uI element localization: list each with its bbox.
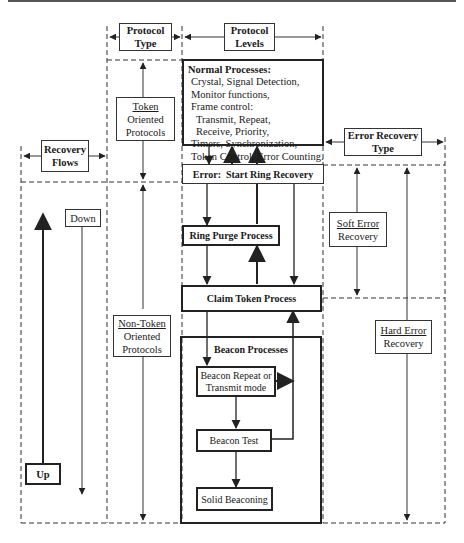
protocol-type-header: Protocol Type [119,23,172,51]
label: Claim Token Process [207,292,296,305]
error-start-ring-recovery-box: Error: Start Ring Recovery [182,164,324,184]
beacon-test-box: Beacon Test [196,429,272,452]
non-token-oriented-protocols-box: Non-Token Oriented Protocols [113,315,171,357]
label: Protocol [231,24,269,37]
process-line: Frame control: [188,101,318,113]
protocol-levels-header: Protocol Levels [224,23,275,51]
soft-error-recovery-box: Soft Error Recovery [329,212,387,247]
label: Type [135,37,157,50]
label: Solid Beaconing [201,493,267,506]
process-line: Receive, Priority, [188,126,318,138]
process-line: Timers, Synchronization, [188,138,318,150]
label: Recovery [44,143,86,156]
claim-token-process-box: Claim Token Process [181,285,322,312]
error-recovery-type-header: Error Recovery Type [344,128,422,156]
normal-processes-title: Normal Processes: [188,64,318,76]
label: Protocols [126,126,166,139]
process-line: Transmit, Repeat, [188,114,318,126]
solid-beaconing-box: Solid Beaconing [196,487,273,511]
process-line: Token Control, Error Counting. [188,151,318,163]
label: Error Recovery [348,129,418,142]
down-label-box: Down [65,209,101,227]
label: Beacon Repeat or [200,370,271,382]
beacon-processes-title: Beacon Processes [182,344,320,355]
label: Levels [235,37,264,50]
label: Oriented [124,330,161,343]
process-line: Monitor functions, [188,89,318,101]
label: Flows [52,156,78,169]
label: Token [132,100,158,113]
token-oriented-protocols-box: Token Oriented Protocols [116,97,175,141]
up-label-box: Up [25,463,61,485]
process-line: Crystal, Signal Detection, [188,76,318,88]
label: Beacon Test [210,434,259,447]
normal-processes-box: Normal Processes: Crystal, Signal Detect… [182,59,324,146]
hard-error-recovery-box: Hard Error Recovery [375,320,432,354]
label: Up [36,468,49,481]
label: Protocol [127,24,165,37]
label: Protocols [122,343,162,356]
label: Type [372,142,394,155]
label: Error: Start Ring Recovery [193,168,313,181]
label: Down [70,212,96,225]
label: Soft Error [337,217,379,230]
ring-purge-process-box: Ring Purge Process [182,225,280,246]
label: Oriented [127,113,164,126]
recovery-flows-header: Recovery Flows [41,140,89,172]
label: Ring Purge Process [189,229,272,242]
label: Hard Error [381,324,427,337]
label: Transmit mode [206,382,266,394]
label: Recovery [383,337,423,350]
label: Recovery [338,230,378,243]
beacon-repeat-box: Beacon Repeat or Transmit mode [196,366,276,397]
label: Non-Token [118,317,166,330]
